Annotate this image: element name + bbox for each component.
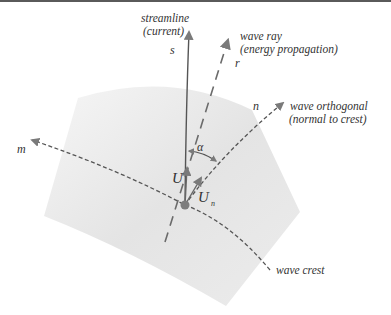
velocity-u-label: U [172,170,184,186]
intersection-point [181,201,190,210]
wave-orthogonal-sublabel: (normal to crest) [289,113,367,126]
wave-ray-var-label: r [235,56,240,70]
wave-orthogonal-label: wave orthogonal [290,100,368,113]
wave-current-diagram: streamline (current) s wave ray (energy … [0,0,391,315]
wave-ray-sublabel: (energy propagation) [240,43,338,56]
wave-crest-var-label: m [17,142,26,156]
angle-alpha-label: α [197,140,204,154]
wave-crest-label: wave crest [276,264,325,276]
wave-orthogonal-var-label: n [253,99,259,113]
velocity-un-subscript: n [211,199,215,208]
wave-field-region [44,86,300,306]
wave-ray-label: wave ray [240,30,283,43]
streamline-var-label: s [170,43,175,57]
velocity-un-label: U [198,189,210,205]
streamline-sublabel: (current) [143,25,184,38]
streamline-label: streamline [141,12,189,24]
